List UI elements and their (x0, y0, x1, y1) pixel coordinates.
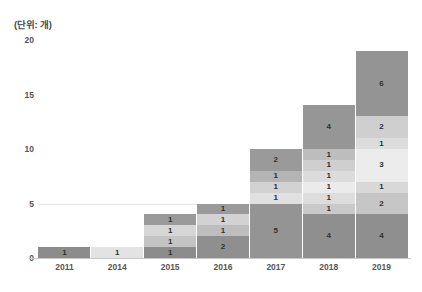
x-axis-line (30, 258, 411, 259)
y-axis-tick-label: 20 (8, 35, 34, 45)
bar-segment-value: 4 (379, 232, 383, 240)
bar-segment-value: 1 (326, 151, 330, 159)
bar-segment: 4 (356, 214, 408, 258)
unit-caption: (단위: 개) (14, 17, 52, 31)
bar-segment-value: 1 (274, 194, 278, 202)
bar-2016[interactable]: 2111 (197, 204, 249, 258)
bar-segment: 1 (303, 160, 355, 171)
bar-segment: 1 (144, 247, 196, 258)
bar-segment: 1 (197, 225, 249, 236)
bar-segment: 4 (303, 214, 355, 258)
y-axis-tick-label: 10 (8, 144, 34, 154)
bar-segment-value: 1 (379, 140, 383, 148)
y-axis-tick-label: 5 (8, 199, 34, 209)
bar-segment-value: 2 (274, 156, 278, 164)
bar-segment-value: 1 (326, 194, 330, 202)
x-axis-tick-label: 2011 (38, 262, 90, 272)
bar-segment: 4 (303, 105, 355, 149)
y-axis-tick-label: 15 (8, 90, 34, 100)
bar-segment-value: 1 (379, 183, 383, 191)
bar-segment: 1 (91, 247, 143, 258)
bar-segment-value: 1 (115, 249, 119, 257)
bar-segment-value: 1 (168, 227, 172, 235)
bar-segment-value: 3 (379, 161, 383, 169)
bar-segment-value: 1 (326, 205, 330, 213)
bar-segment-value: 1 (221, 227, 225, 235)
bar-segment: 1 (197, 204, 249, 215)
bar-segment: 2 (197, 236, 249, 258)
bar-segment: 1 (303, 193, 355, 204)
bar-segment-value: 6 (379, 80, 383, 88)
bar-2015[interactable]: 1111 (144, 214, 196, 258)
bar-segment: 1 (356, 182, 408, 193)
bars-layer: 111111211151112411111144213126 (38, 40, 408, 258)
bar-segment: 6 (356, 51, 408, 116)
bar-segment-value: 2 (379, 123, 383, 131)
bar-segment-value: 1 (326, 161, 330, 169)
x-axis-tick-label: 2018 (303, 262, 355, 272)
bar-segment: 1 (250, 182, 302, 193)
x-axis-tick-label: 2017 (250, 262, 302, 272)
bar-segment-value: 1 (274, 183, 278, 191)
bar-segment-value: 4 (326, 123, 330, 131)
bar-2011[interactable]: 1 (38, 247, 90, 258)
bar-2014[interactable]: 1 (91, 247, 143, 258)
x-axis: 2011201420152016201720182019 (38, 262, 408, 282)
bar-segment-value: 1 (168, 216, 172, 224)
bar-segment-value: 2 (379, 200, 383, 208)
bar-segment: 1 (38, 247, 90, 258)
bar-2018[interactable]: 41111114 (303, 105, 355, 258)
x-axis-tick-label: 2015 (144, 262, 196, 272)
bar-segment: 5 (250, 204, 302, 259)
bar-segment-value: 1 (274, 172, 278, 180)
x-axis-tick-label: 2016 (197, 262, 249, 272)
bar-segment: 1 (356, 138, 408, 149)
bar-segment-value: 4 (326, 232, 330, 240)
bar-segment: 1 (250, 193, 302, 204)
x-axis-tick-label: 2014 (91, 262, 143, 272)
bar-2019[interactable]: 4213126 (356, 51, 408, 258)
bar-segment-value: 1 (168, 249, 172, 257)
bar-segment: 1 (144, 236, 196, 247)
bar-segment-value: 5 (274, 227, 278, 235)
bar-segment: 2 (250, 149, 302, 171)
bar-segment-value: 1 (168, 238, 172, 246)
x-axis-tick-label: 2019 (356, 262, 408, 272)
bar-segment: 1 (250, 171, 302, 182)
stacked-bar-chart: (단위: 개) 05101520 11111121115111241111114… (0, 0, 422, 292)
bar-segment-value: 2 (221, 243, 225, 251)
bar-segment-value: 1 (326, 172, 330, 180)
bar-2017[interactable]: 51112 (250, 149, 302, 258)
bar-segment: 1 (303, 182, 355, 193)
bar-segment: 1 (197, 214, 249, 225)
bar-segment: 1 (303, 204, 355, 215)
bar-segment: 1 (144, 225, 196, 236)
bar-segment-value: 1 (221, 205, 225, 213)
bar-segment: 1 (303, 149, 355, 160)
bar-segment: 3 (356, 149, 408, 182)
bar-segment-value: 1 (62, 249, 66, 257)
bar-segment: 2 (356, 116, 408, 138)
y-axis: 05101520 (0, 40, 34, 258)
bar-segment-value: 1 (326, 183, 330, 191)
bar-segment: 1 (144, 214, 196, 225)
bar-segment: 2 (356, 193, 408, 215)
bar-segment: 1 (303, 171, 355, 182)
bar-segment-value: 1 (221, 216, 225, 224)
